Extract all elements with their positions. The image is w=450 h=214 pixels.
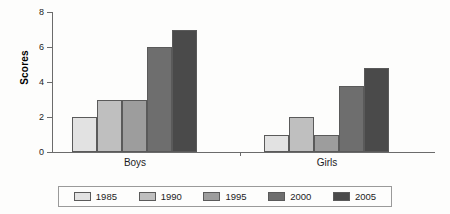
x-label-girls: Girls (287, 157, 367, 168)
legend-label-1985: 1985 (96, 192, 117, 202)
legend-label-1990: 1990 (161, 192, 182, 202)
legend-item-2005[interactable]: 2005 (333, 192, 376, 202)
bar-girls-2005 (364, 68, 389, 152)
legend-swatch-2000 (268, 192, 285, 201)
y-tick-label-4: 4 (4, 78, 44, 87)
legend-label-1995: 1995 (225, 192, 246, 202)
bar-boys-2005 (172, 30, 197, 153)
legend-item-2000[interactable]: 2000 (268, 192, 311, 202)
y-tick-label-0: 0 (4, 148, 44, 157)
y-tick-label-2: 2 (4, 113, 44, 122)
bar-girls-1995 (314, 135, 339, 153)
bar-girls-1990 (289, 117, 314, 152)
legend-swatch-1990 (139, 192, 156, 201)
x-tick-group-separator (240, 152, 241, 156)
bar-boys-2000 (147, 47, 172, 152)
y-tick-8 (47, 12, 52, 13)
legend-swatch-2005 (333, 192, 350, 201)
bar-girls-2000 (339, 86, 364, 153)
y-tick-0 (47, 152, 52, 153)
y-tick-label-8: 8 (4, 8, 44, 17)
bar-boys-1995 (122, 100, 147, 153)
bar-boys-1990 (97, 100, 122, 153)
plot-area: Scores 0 2 4 6 8 (0, 0, 450, 170)
x-label-boys: Boys (95, 157, 175, 168)
legend-item-1995[interactable]: 1995 (203, 192, 246, 202)
y-tick-6 (47, 47, 52, 48)
legend-swatch-1995 (203, 192, 220, 201)
y-tick-4 (47, 82, 52, 83)
legend-swatch-1985 (74, 192, 91, 201)
y-tick-label-6: 6 (4, 43, 44, 52)
bar-girls-1985 (264, 135, 289, 153)
legend-item-1985[interactable]: 1985 (74, 192, 117, 202)
legend-item-1990[interactable]: 1990 (139, 192, 182, 202)
x-axis-line (52, 152, 435, 153)
y-axis-line (52, 12, 53, 153)
legend-label-2000: 2000 (290, 192, 311, 202)
chart-legend: 1985 1990 1995 2000 2005 (58, 186, 392, 207)
y-tick-2 (47, 117, 52, 118)
bar-boys-1985 (72, 117, 97, 152)
legend-label-2005: 2005 (355, 192, 376, 202)
bar-chart: Scores 0 2 4 6 8 (0, 0, 450, 214)
